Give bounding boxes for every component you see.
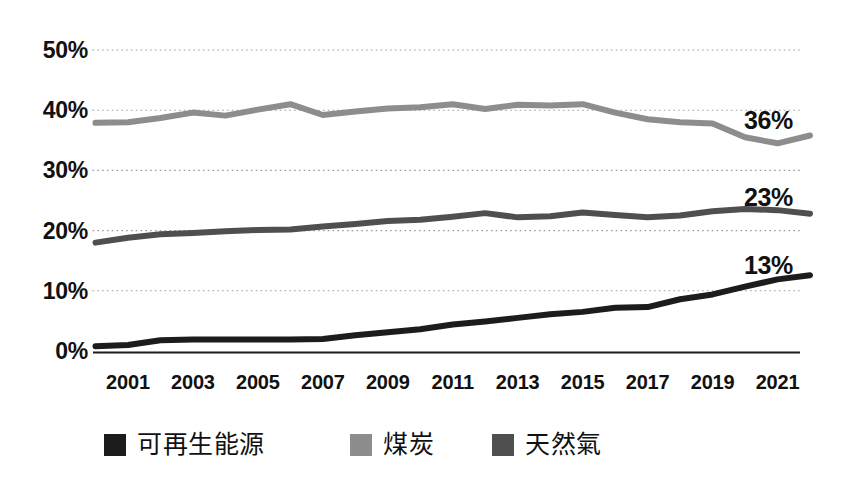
legend-item[interactable]: 天然氣 [492,432,602,457]
x-axis-tick-label: 2007 [301,371,345,394]
x-axis-tick-label: 2015 [561,371,605,394]
energy-share-line-chart: 50%40%30%20%10%0% 2001200320052007200920… [0,0,846,501]
y-axis-tick-label: 50% [14,39,88,62]
legend-item[interactable]: 可再生能源 [104,432,265,457]
legend-swatch-icon [104,434,126,456]
x-axis-tick-label: 2019 [691,371,735,394]
legend-swatch-icon [492,434,514,456]
chart-plot-area [0,0,846,501]
series-line [96,275,811,346]
x-axis-tick-label: 2017 [626,371,670,394]
y-axis-tick-label: 10% [14,279,88,302]
x-axis-tick-labels: 2001200320052007200920112013201520172019… [0,371,846,401]
x-axis-tick-label: 2013 [496,371,540,394]
series-line [96,209,811,243]
legend-label: 可再生能源 [137,432,265,457]
y-axis-tick-label: 0% [14,340,88,363]
y-axis-tick-label: 20% [14,219,88,242]
x-axis-tick-label: 2009 [366,371,410,394]
gas-end-value-label: 23% [744,183,793,212]
chart-legend: 可再生能源煤炭天然氣 [0,432,846,478]
y-axis-tick-label: 30% [14,159,88,182]
legend-item[interactable]: 煤炭 [350,432,434,457]
x-axis-tick-label: 2001 [106,371,150,394]
legend-label: 煤炭 [383,432,434,457]
gridlines [93,50,801,291]
x-axis-tick-label: 2021 [756,371,800,394]
coal-end-value-label: 36% [744,106,793,135]
x-axis-tick-label: 2011 [431,371,474,394]
legend-label: 天然氣 [525,432,602,457]
x-axis-tick-label: 2005 [236,371,280,394]
legend-swatch-icon [350,434,372,456]
y-axis-tick-labels: 50%40%30%20%10%0% [14,0,88,501]
x-axis-tick-label: 2003 [171,371,215,394]
renewables-end-value-label: 13% [744,251,793,280]
y-axis-tick-label: 40% [14,99,88,122]
series-lines [96,104,811,346]
